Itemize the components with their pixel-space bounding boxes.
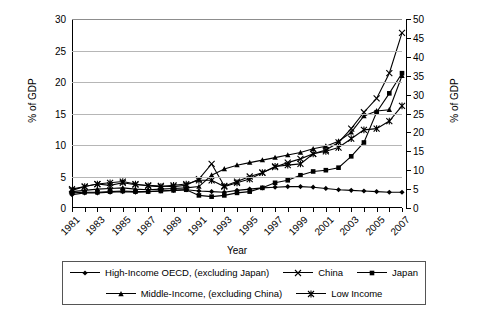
- y-tick-right: [406, 38, 411, 39]
- x-tick-label: 1997: [256, 214, 285, 243]
- x-tick: [339, 208, 340, 212]
- x-tick: [313, 208, 314, 212]
- gridline: [72, 82, 402, 83]
- legend-label: China: [318, 267, 343, 278]
- x-tick: [123, 208, 124, 212]
- legend-marker-cross: [283, 272, 313, 273]
- x-tick: [288, 208, 289, 212]
- legend-label: Middle-Income, (excluding China): [141, 288, 283, 299]
- x-tick: [135, 208, 136, 212]
- legend-row: High-Income OECD, (excluding Japan)China…: [63, 262, 425, 283]
- x-tick: [174, 208, 175, 212]
- x-tick: [250, 208, 251, 212]
- gridline: [72, 114, 402, 115]
- legend-marker-diamond: [70, 272, 100, 273]
- legend-item[interactable]: Low Income: [296, 288, 382, 299]
- x-axis-title: Year: [72, 245, 402, 256]
- x-tick: [262, 208, 263, 212]
- x-tick-label: 1993: [205, 214, 234, 243]
- gridline: [72, 177, 402, 178]
- legend-marker-triangle: [106, 293, 136, 294]
- x-tick-label: 2001: [307, 214, 336, 243]
- x-tick: [237, 208, 238, 212]
- x-tick-label: 1987: [129, 214, 158, 243]
- x-tick-label: 1985: [104, 214, 133, 243]
- y-tick-label-left: 25: [55, 45, 66, 56]
- x-tick: [377, 208, 378, 212]
- x-tick: [351, 208, 352, 212]
- x-tick-label: 2003: [332, 214, 361, 243]
- gridline: [72, 51, 402, 52]
- x-tick: [199, 208, 200, 212]
- y-tick-right: [406, 208, 411, 209]
- y-axis-right-title: % of GDP: [449, 61, 460, 141]
- legend-marker-square: [357, 272, 387, 273]
- y-tick-right: [406, 132, 411, 133]
- x-tick: [402, 208, 403, 212]
- y-tick-right: [406, 170, 411, 171]
- y-tick-right: [406, 57, 411, 58]
- y-tick-right: [406, 95, 411, 96]
- x-tick: [97, 208, 98, 212]
- y-axis-right: 05101520253035404550: [406, 19, 432, 208]
- legend-label: High-Income OECD, (excluding Japan): [105, 267, 269, 278]
- x-tick: [110, 208, 111, 212]
- x-tick-label: 2005: [357, 214, 386, 243]
- legend-item[interactable]: Japan: [357, 267, 418, 278]
- x-tick-label: 1999: [281, 214, 310, 243]
- x-tick: [148, 208, 149, 212]
- y-tick-right: [406, 189, 411, 190]
- legend-label: Japan: [392, 267, 418, 278]
- x-tick-label: 1991: [180, 214, 209, 243]
- data-point-cross: [295, 270, 301, 276]
- y-tick-label-left: 0: [60, 203, 66, 214]
- legend-marker-star: [296, 293, 326, 294]
- chart-legend: High-Income OECD, (excluding Japan)China…: [62, 261, 426, 305]
- legend-item[interactable]: China: [283, 267, 343, 278]
- y-tick-right: [406, 19, 411, 20]
- x-tick: [275, 208, 276, 212]
- x-tick: [326, 208, 327, 212]
- x-tick: [212, 208, 213, 212]
- plot-area: [72, 19, 402, 208]
- y-tick-label-left: 20: [55, 77, 66, 88]
- y-tick-right: [406, 76, 411, 77]
- y-tick-label-left: 5: [60, 171, 66, 182]
- x-tick: [389, 208, 390, 212]
- legend-item[interactable]: High-Income OECD, (excluding Japan): [70, 267, 269, 278]
- x-tick-label: 1981: [53, 214, 82, 243]
- legend-row: Middle-Income, (excluding China)Low Inco…: [63, 283, 425, 304]
- x-tick-label: 1983: [78, 214, 107, 243]
- y-axis-left-title: % of GDP: [27, 61, 38, 141]
- y-tick-label-left: 10: [55, 140, 66, 151]
- gridline: [72, 19, 402, 20]
- y-axis-left: 051015202530: [40, 19, 66, 208]
- legend-label: Low Income: [331, 288, 382, 299]
- y-tick-right: [406, 151, 411, 152]
- x-tick-label: 2007: [383, 214, 412, 243]
- data-point-diamond: [82, 270, 87, 275]
- legend-item[interactable]: Middle-Income, (excluding China): [106, 288, 283, 299]
- x-tick-label: 1995: [230, 214, 259, 243]
- data-point-square: [370, 270, 375, 275]
- x-tick: [300, 208, 301, 212]
- y-tick-label-left: 15: [55, 108, 66, 119]
- x-tick-label: 1989: [154, 214, 183, 243]
- gridline: [72, 145, 402, 146]
- data-point-star: [308, 290, 314, 297]
- x-tick: [186, 208, 187, 212]
- x-tick: [224, 208, 225, 212]
- x-tick: [364, 208, 365, 212]
- x-tick: [72, 208, 73, 212]
- data-point-triangle: [118, 291, 123, 296]
- x-tick: [161, 208, 162, 212]
- y-tick-right: [406, 114, 411, 115]
- x-tick: [85, 208, 86, 212]
- y-tick-label-left: 30: [55, 14, 66, 25]
